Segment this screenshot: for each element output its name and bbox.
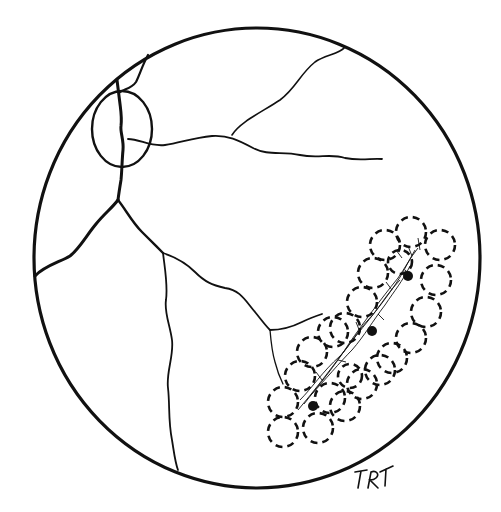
superior-temporal-vessel [128, 136, 382, 160]
central-trunk-vessel [117, 80, 123, 200]
artist-signature [355, 466, 393, 488]
inferior-descending-vessel [163, 253, 178, 470]
lesion-dot-3 [308, 401, 318, 411]
laser-spot-markers [268, 217, 455, 447]
fundus-diagram [0, 0, 501, 512]
lesion-dot-1 [403, 271, 413, 281]
inferior-nasal-vessel [118, 200, 163, 253]
inferior-temporal-subbranch [270, 330, 283, 384]
inferior-temporal-vessel [163, 253, 322, 330]
superior-branch-vessel [232, 47, 345, 135]
fundus-boundary [34, 28, 480, 488]
lesion-dot-2 [367, 326, 377, 336]
inferior-trunk-vessel [35, 200, 118, 276]
